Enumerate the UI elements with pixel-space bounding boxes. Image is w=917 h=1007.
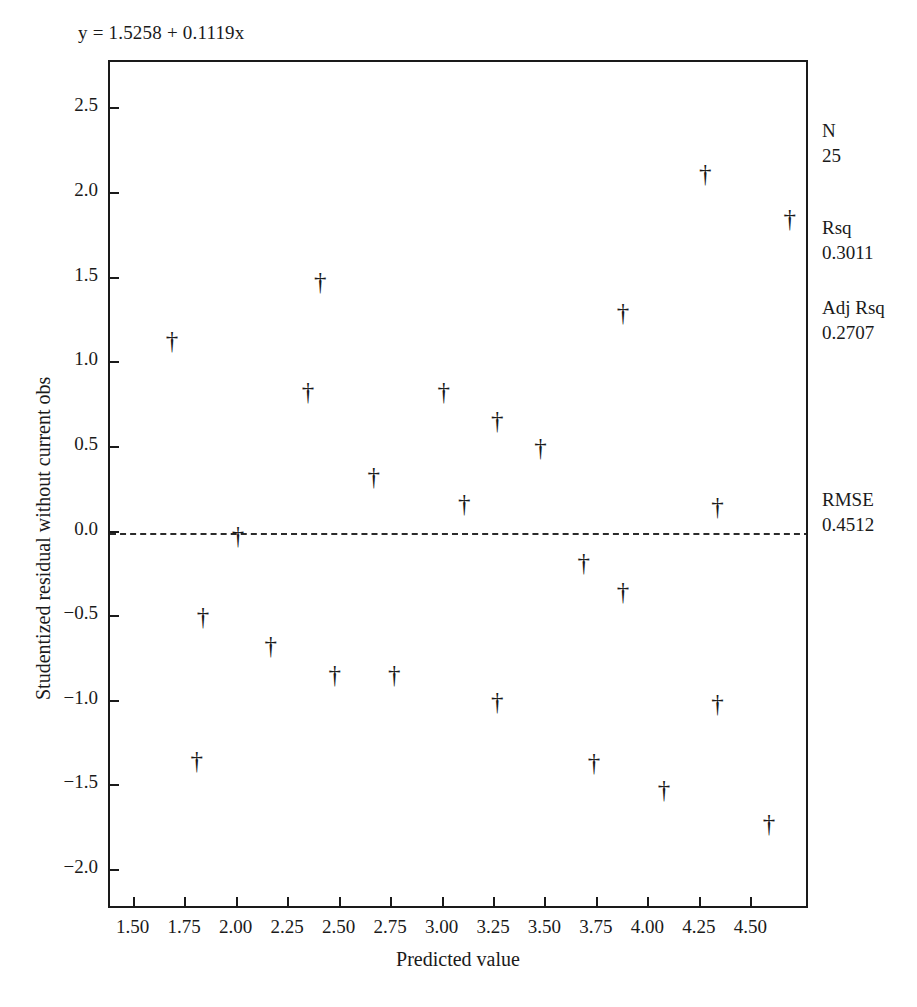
x-tick-mark (236, 897, 238, 908)
x-tick-label: 4.50 (715, 916, 785, 938)
residual-scatter-figure: y = 1.5258 + 0.1119x †††††††††††††††††††… (0, 0, 917, 1007)
dagger-icon: † (368, 462, 380, 492)
y-tick-mark (108, 869, 119, 871)
dagger-icon: † (302, 377, 314, 407)
x-tick-mark (390, 897, 392, 908)
dagger-icon: † (438, 377, 450, 407)
x-tick-mark (339, 897, 341, 908)
y-axis-title: Studentized residual without current obs (32, 377, 55, 700)
stat-label: RMSE (822, 487, 874, 512)
x-tick-mark (133, 897, 135, 908)
y-tick-mark (108, 361, 119, 363)
dagger-icon: † (658, 775, 670, 805)
dagger-icon: † (314, 267, 326, 297)
y-tick-mark (108, 107, 119, 109)
dagger-icon: † (491, 687, 503, 717)
stat-label: Rsq (822, 215, 874, 240)
y-tick-mark (108, 446, 119, 448)
dagger-icon: † (328, 660, 340, 690)
dagger-icon: † (578, 548, 590, 578)
dagger-icon: † (190, 746, 202, 776)
stat-label: N (822, 118, 841, 143)
zero-reference-line (110, 533, 806, 535)
dagger-icon: † (232, 521, 244, 551)
dagger-icon: † (711, 689, 723, 719)
dagger-icon: † (617, 577, 629, 607)
dagger-icon: † (197, 602, 209, 632)
dagger-icon: † (711, 492, 723, 522)
dagger-icon: † (166, 326, 178, 356)
y-tick-mark (108, 192, 119, 194)
x-tick-mark (750, 897, 752, 908)
x-tick-mark (493, 897, 495, 908)
dagger-icon: † (491, 406, 503, 436)
dagger-icon: † (458, 489, 470, 519)
x-tick-mark (596, 897, 598, 908)
dagger-icon: † (699, 159, 711, 189)
dagger-icon: † (763, 809, 775, 839)
dagger-icon: † (534, 433, 546, 463)
plot-frame: ††††††††††††††††††††††††† (108, 60, 808, 908)
x-tick-mark (442, 897, 444, 908)
x-tick-mark (184, 897, 186, 908)
dagger-icon: † (388, 660, 400, 690)
stat-value: 25 (822, 143, 841, 168)
x-axis-title: Predicted value (108, 948, 808, 971)
dagger-icon: † (783, 204, 795, 234)
y-tick-label: 1.5 (28, 264, 98, 286)
y-tick-mark (108, 784, 119, 786)
y-tick-mark (108, 531, 119, 533)
stat-n: N25 (822, 118, 841, 168)
y-tick-label: −2.0 (28, 856, 98, 878)
plot-area: ††††††††††††††††††††††††† (110, 62, 806, 906)
stat-label: Adj Rsq (822, 295, 885, 320)
x-tick-mark (287, 897, 289, 908)
y-tick-label: 1.0 (28, 348, 98, 370)
x-tick-mark (544, 897, 546, 908)
dagger-icon: † (617, 298, 629, 328)
stat-rsq: Rsq0.3011 (822, 215, 874, 265)
stat-adj-rsq: Adj Rsq0.2707 (822, 295, 885, 345)
y-tick-mark (108, 700, 119, 702)
dagger-icon: † (588, 748, 600, 778)
x-tick-mark (699, 897, 701, 908)
y-tick-mark (108, 615, 119, 617)
stat-rmse: RMSE0.4512 (822, 487, 874, 537)
stat-value: 0.4512 (822, 512, 874, 537)
y-tick-label: −1.5 (28, 771, 98, 793)
regression-equation-annotation: y = 1.5258 + 0.1119x (78, 22, 245, 44)
y-tick-mark (108, 277, 119, 279)
y-tick-label: 2.0 (28, 179, 98, 201)
x-tick-mark (647, 897, 649, 908)
y-tick-label: 2.5 (28, 94, 98, 116)
stat-value: 0.2707 (822, 320, 885, 345)
stat-value: 0.3011 (822, 240, 874, 265)
dagger-icon: † (265, 631, 277, 661)
